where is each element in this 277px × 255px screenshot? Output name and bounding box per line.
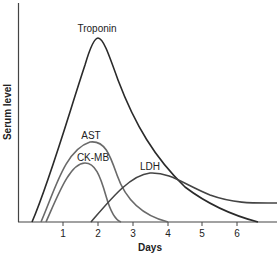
x-tick-label: 1 xyxy=(60,228,66,239)
y-axis-label: Serum level xyxy=(2,84,13,140)
ck-mb-curve xyxy=(46,163,121,222)
ck-mb-label: CK-MB xyxy=(77,152,110,163)
x-tick-label: 5 xyxy=(199,228,205,239)
x-tick-label: 2 xyxy=(95,228,101,239)
x-tick-label: 4 xyxy=(165,228,171,239)
ast-label: AST xyxy=(81,130,100,141)
x-tick-label: 3 xyxy=(130,228,136,239)
x-ticks xyxy=(63,222,237,226)
troponin-label: Troponin xyxy=(77,23,116,34)
x-axis-label: Days xyxy=(138,242,162,253)
chart: 1 2 3 4 5 6 Days Serum level Troponin AS… xyxy=(0,0,277,255)
troponin-curve xyxy=(32,38,258,222)
x-tick-label: 6 xyxy=(234,228,240,239)
ldh-label: LDH xyxy=(140,161,160,172)
